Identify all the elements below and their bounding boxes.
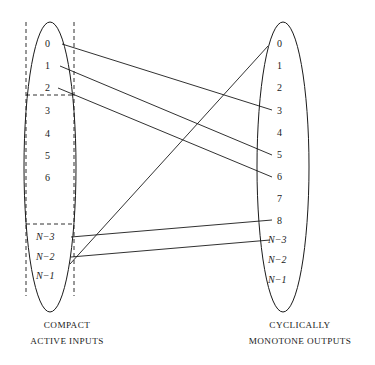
right-item-2: 2: [277, 82, 282, 93]
right-item-5: 5: [277, 149, 282, 160]
left-set-ellipse: [24, 22, 76, 312]
diagram-canvas: 0 1 2 3 4 5 6 N−3 N−2 N−1 0 1 2 3 4 5 6 …: [0, 0, 375, 365]
right-caption: CYCLICALLY MONOTONE OUTPUTS: [249, 320, 351, 346]
right-set-labels: 0 1 2 3 4 5 6 7 8 N−3 N−2 N−1: [267, 38, 286, 285]
left-item-5: 5: [45, 150, 50, 161]
right-item-n-minus-1: N−1: [267, 274, 286, 285]
right-item-7: 7: [277, 193, 282, 204]
right-item-n-minus-2: N−2: [267, 254, 286, 265]
left-item-3: 3: [45, 105, 50, 116]
mapping-line-nminus2-to-nminus3: [71, 240, 270, 257]
left-set-labels: 0 1 2 3 4 5 6 N−3 N−2 N−1: [35, 38, 54, 281]
right-item-0: 0: [277, 38, 282, 49]
right-item-1: 1: [277, 60, 282, 71]
mapping-diagram: 0 1 2 3 4 5 6 N−3 N−2 N−1 0 1 2 3 4 5 6 …: [0, 0, 375, 365]
left-item-6: 6: [45, 172, 50, 183]
right-item-4: 4: [277, 127, 282, 138]
left-item-2: 2: [45, 82, 50, 93]
mapping-line-nminus1-to-0: [70, 46, 268, 264]
left-caption-line-1: COMPACT: [44, 320, 90, 330]
left-item-n-minus-3: N−3: [35, 231, 54, 242]
right-set-ellipse: [257, 22, 309, 312]
left-item-n-minus-2: N−2: [35, 251, 54, 262]
mapping-line-2-to-6: [58, 88, 272, 177]
mapping-line-1-to-5: [60, 66, 272, 155]
mapping-line-0-to-3: [62, 44, 272, 110]
left-caption-line-2: ACTIVE INPUTS: [30, 336, 103, 346]
left-item-4: 4: [45, 128, 50, 139]
left-item-0: 0: [45, 38, 50, 49]
left-caption: COMPACT ACTIVE INPUTS: [30, 320, 103, 346]
right-item-n-minus-3: N−3: [267, 234, 286, 245]
right-caption-line-1: CYCLICALLY: [269, 320, 330, 330]
left-item-1: 1: [45, 60, 50, 71]
right-caption-line-2: MONOTONE OUTPUTS: [249, 336, 351, 346]
right-item-8: 8: [277, 215, 282, 226]
right-item-3: 3: [277, 105, 282, 116]
left-item-n-minus-1: N−1: [35, 270, 54, 281]
mapping-lines: [58, 44, 272, 264]
mapping-line-nminus3-to-8: [71, 220, 272, 237]
right-item-6: 6: [277, 171, 282, 182]
